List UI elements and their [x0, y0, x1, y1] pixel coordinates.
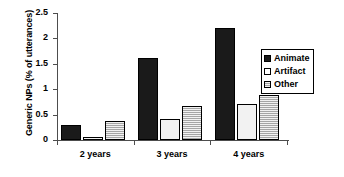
y-axis-tick-label: 0 — [43, 135, 48, 144]
y-axis-tick-label: 2.5 — [35, 8, 48, 17]
hatched-square-swatch — [264, 81, 271, 88]
y-axis-tick-label: 1.5 — [35, 59, 48, 68]
chart-legend: Animate Artifact Other — [261, 49, 314, 94]
x-axis-tick — [287, 140, 288, 145]
y-axis-tick-label: 1 — [43, 84, 48, 93]
white-square-swatch — [264, 68, 271, 75]
legend-label-animate: Animate — [274, 54, 310, 63]
bar-other-4-years — [259, 95, 279, 140]
y-axis-tick-label: 2 — [43, 33, 48, 42]
x-axis-tick — [134, 140, 135, 145]
legend-item-other: Other — [264, 78, 310, 91]
bar-artifact-2-years — [83, 137, 103, 140]
bar-animate-3-years — [138, 58, 158, 140]
black-square-swatch — [264, 55, 271, 62]
x-axis-tick — [210, 140, 211, 145]
y-axis-title: Generic NPs (% of utterances) — [24, 0, 34, 148]
x-axis-tick-label: 3 years — [134, 149, 211, 159]
legend-item-animate: Animate — [264, 52, 310, 65]
legend-label-other: Other — [274, 80, 298, 89]
plot-area — [57, 13, 287, 140]
bar-animate-2-years — [61, 125, 81, 140]
x-axis-tick-label: 2 years — [57, 149, 134, 159]
legend-label-artifact: Artifact — [274, 67, 306, 76]
bar-chart: Generic NPs (% of utterances) 00.511.522… — [0, 0, 344, 177]
x-axis-line — [57, 140, 289, 141]
bar-animate-4-years — [215, 28, 235, 140]
bar-artifact-4-years — [237, 104, 257, 140]
bar-artifact-3-years — [160, 119, 180, 140]
y-axis-tick-label: 0.5 — [35, 110, 48, 119]
bar-other-2-years — [105, 121, 125, 140]
bar-other-3-years — [182, 106, 202, 140]
x-axis-tick-label: 4 years — [210, 149, 287, 159]
legend-item-artifact: Artifact — [264, 65, 310, 78]
x-axis-tick — [57, 140, 58, 145]
